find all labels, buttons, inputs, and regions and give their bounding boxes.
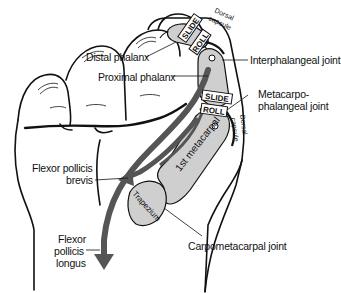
proximal-phalanx-label: Proximal phalanx [98,71,175,83]
flexor-longus-label-line1: Flexor [58,233,86,245]
mcp-capsule-dorsal-text: Dorsal [239,114,249,135]
little-finger-outline [18,74,71,125]
mcp-joint-label-line2: phalangeal joint [258,100,328,112]
flexor-pollicis-longus-arrowhead [94,254,114,270]
flexor-brevis-label-line2: brevis [66,174,93,186]
flexor-brevis-label-line1: Flexor pollicis [32,162,93,174]
interphalangeal-joint-label: Interphalangeal joint [250,54,340,66]
palm-left-edge [15,120,34,290]
flexor-longus-label-line2: pollicis [54,245,84,257]
ip-joint-axis [209,55,215,61]
carpometacarpal-joint-label: Carpometacarpal joint [188,240,287,252]
mcp-joint-label-line1: Metacarpo- [258,88,309,100]
distal-phalanx-label: Distal phalanx [86,51,149,63]
leader-distal-phalanx [146,42,176,57]
mcp-capsule-capsule-text: capsule [229,117,240,142]
leader-cmc-joint [164,208,202,236]
flexor-longus-label-line3: longus [56,257,86,269]
knuckle-line [25,104,186,128]
finger-crease-2 [95,128,112,133]
palm-crease [97,140,100,205]
thumb-flexion-diagram: SLIDE ROLL SLIDE ROLL Dorsal capsule Dor… [0,0,341,293]
